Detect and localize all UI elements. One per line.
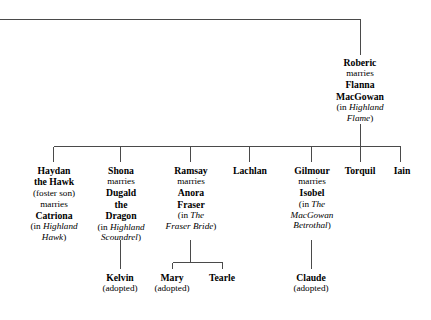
source-suffix: ) xyxy=(328,220,331,230)
book-title-line2: Fraser Bride xyxy=(166,221,214,231)
person-name: Tearle xyxy=(196,272,248,283)
person-note: (adopted) xyxy=(282,283,340,294)
person-name-line2: the Hawk xyxy=(14,176,94,187)
book-title-line2: Flame xyxy=(347,113,370,123)
book-title-line1: The xyxy=(311,199,325,209)
person-name-line1: Shona xyxy=(86,165,156,176)
person-shona: Shona marries Dugald the Dragon (in High… xyxy=(86,165,156,243)
person-name-line1: Ramsay xyxy=(154,165,228,176)
marriage-label: marries xyxy=(154,176,228,187)
person-name-line1: Haydan xyxy=(14,165,94,176)
source-prefix: (in xyxy=(30,221,43,231)
source-suffix: ) xyxy=(213,221,216,231)
source-book-cont: Fraser Bride) xyxy=(154,221,228,232)
marriage-label: marries xyxy=(313,68,407,79)
person-name-line1: Torquil xyxy=(336,165,384,176)
spouse-name-line2: MacGowan xyxy=(313,91,407,102)
source-suffix: ) xyxy=(370,113,373,123)
book-title-line2: MacGowan xyxy=(278,210,346,221)
marriage-label: marries xyxy=(278,176,346,187)
source-book-cont: Hawk) xyxy=(14,232,94,243)
person-haydan: Haydan the Hawk (foster son) marries Cat… xyxy=(14,165,94,243)
person-mary: Mary (adopted) xyxy=(142,272,202,294)
person-iain: Iain xyxy=(382,165,422,176)
person-tearle: Tearle xyxy=(196,272,248,283)
source-book-cont: Betrothal) xyxy=(278,220,346,231)
book-title-line2: Scoundrel xyxy=(101,232,138,242)
person-note: (foster son) xyxy=(14,188,94,199)
book-title-line1: Highland xyxy=(43,221,78,231)
spouse-name: Catriona xyxy=(14,210,94,221)
book-title-line1: Highland xyxy=(349,102,384,112)
person-name: Claude xyxy=(282,272,340,283)
family-tree-diagram: Roberic marries Flanna MacGowan (in High… xyxy=(0,0,431,320)
spouse-name-line1: Isobel xyxy=(278,187,346,198)
marriage-label: marries xyxy=(86,176,156,187)
source-prefix: (in xyxy=(178,210,191,220)
person-roberic: Roberic marries Flanna MacGowan (in High… xyxy=(313,57,407,124)
person-torquil: Torquil xyxy=(336,165,384,176)
source-book-cont: Flame) xyxy=(313,113,407,124)
spouse-name-line2: the xyxy=(86,199,156,210)
book-title-line1: Highland xyxy=(110,222,145,232)
spouse-name-line3: Dragon xyxy=(86,210,156,221)
source-book: (in Highland xyxy=(313,102,407,113)
spouse-name-line1: Anora xyxy=(154,187,228,198)
source-prefix: (in xyxy=(336,102,349,112)
spouse-name-line2: Fraser xyxy=(154,199,228,210)
person-name-line1: Lachlan xyxy=(222,165,278,176)
person-note: (adopted) xyxy=(142,283,202,294)
source-prefix: (in xyxy=(97,222,110,232)
marriage-label: marries xyxy=(14,199,94,210)
person-claude: Claude (adopted) xyxy=(282,272,340,294)
person-ramsay: Ramsay marries Anora Fraser (in The Fras… xyxy=(154,165,228,232)
source-prefix: (in xyxy=(299,199,312,209)
source-book: (in The xyxy=(278,199,346,210)
person-lachlan: Lachlan xyxy=(222,165,278,176)
book-title-line3: Betrothal xyxy=(293,220,327,230)
spouse-name-line1: Flanna xyxy=(313,79,407,90)
book-title-line2: Hawk xyxy=(42,232,63,242)
source-book: (in Highland xyxy=(86,222,156,233)
source-book-cont: Scoundrel) xyxy=(86,232,156,243)
person-name-line1: Iain xyxy=(382,165,422,176)
person-name: Mary xyxy=(142,272,202,283)
person-name: Roberic xyxy=(313,57,407,68)
spouse-name-line1: Dugald xyxy=(86,187,156,198)
source-suffix: ) xyxy=(63,232,66,242)
source-book: (in Highland xyxy=(14,221,94,232)
book-title-line1: The xyxy=(190,210,204,220)
source-book: (in The xyxy=(154,210,228,221)
source-suffix: ) xyxy=(138,232,141,242)
